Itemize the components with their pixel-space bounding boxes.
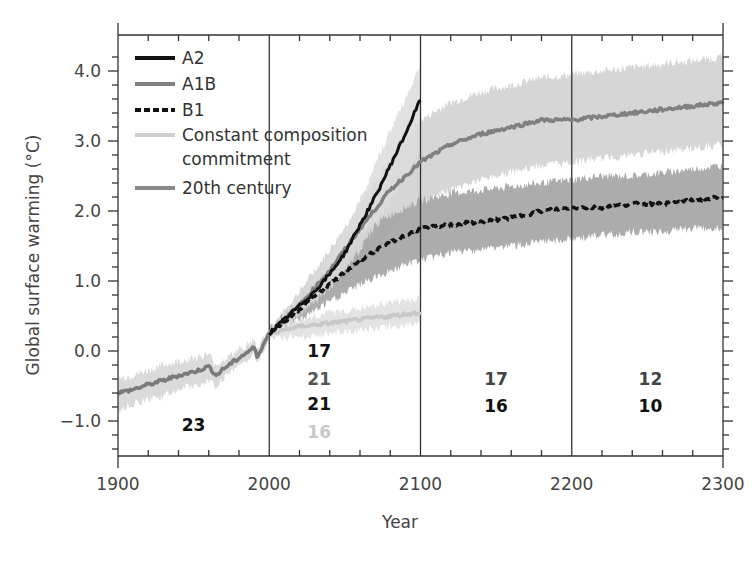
model-count-label: 12 xyxy=(639,369,663,389)
x-tick-label: 2000 xyxy=(248,474,291,494)
y-tick-label: −1.0 xyxy=(60,411,101,431)
legend-item-a2: A2 xyxy=(135,48,204,68)
y-tick-label: 0.0 xyxy=(74,341,101,361)
x-axis-title: Year xyxy=(381,512,418,532)
x-tick-label: 2300 xyxy=(701,474,744,494)
model-count-label: 16 xyxy=(484,396,508,416)
x-tick-label: 2200 xyxy=(550,474,593,494)
legend-label-a2: A2 xyxy=(182,48,204,68)
model-count-label: 23 xyxy=(182,415,206,435)
y-tick-label: 2.0 xyxy=(74,201,101,221)
x-tick-label: 1900 xyxy=(96,474,139,494)
model-count-label: 21 xyxy=(307,394,331,414)
model-count-label: 17 xyxy=(307,341,331,361)
model-count-label: 16 xyxy=(307,422,331,442)
chart-svg: 19002000210022002300−1.00.01.02.03.04.0 … xyxy=(0,0,754,568)
model-count-annotations: 231721211617161210 xyxy=(182,341,663,442)
model-count-label: 10 xyxy=(639,396,663,416)
y-tick-label: 4.0 xyxy=(74,61,101,81)
legend-label-b1: B1 xyxy=(182,100,204,120)
model-count-label: 21 xyxy=(307,369,331,389)
legend-label-20th-century: 20th century xyxy=(182,178,292,198)
legend-item-20th-century: 20th century xyxy=(135,178,292,198)
x-tick-label: 2100 xyxy=(399,474,442,494)
y-tick-label: 3.0 xyxy=(74,131,101,151)
legend-label-commitment: commitment xyxy=(182,149,291,169)
legend-label-constant-composition: Constant composition xyxy=(182,125,367,145)
model-count-label: 17 xyxy=(484,369,508,389)
legend-item-a1b: A1B xyxy=(135,74,216,94)
y-tick-label: 1.0 xyxy=(74,271,101,291)
legend: A2 A1B B1 Constant composition commitmen… xyxy=(135,48,367,198)
legend-item-constant-composition: Constant composition commitment xyxy=(135,125,367,169)
y-axis-title: Global surface warming (°C) xyxy=(23,135,43,376)
legend-item-b1: B1 xyxy=(135,100,204,120)
legend-label-a1b: A1B xyxy=(182,74,216,94)
